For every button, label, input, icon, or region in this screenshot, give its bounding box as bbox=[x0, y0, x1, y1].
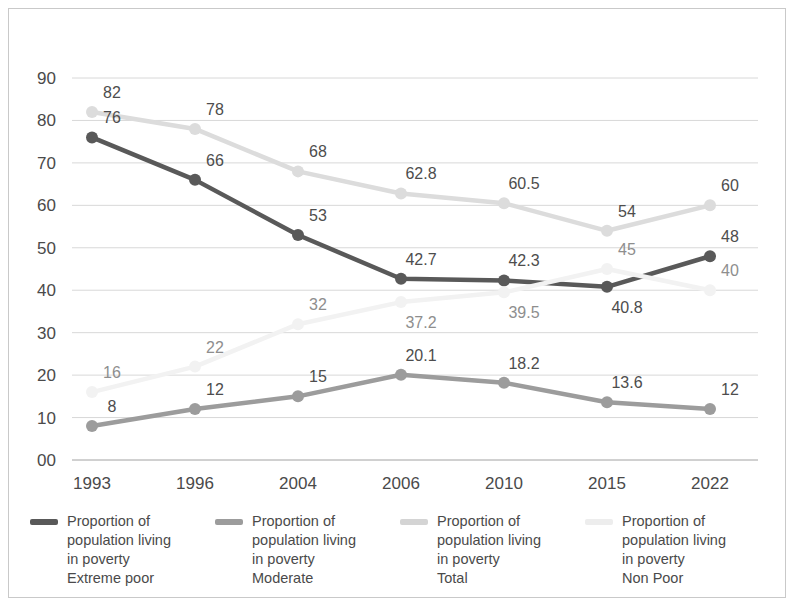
y-axis-tick-label: 90 bbox=[37, 69, 56, 88]
data-point bbox=[601, 396, 613, 408]
y-axis-tick-label: 20 bbox=[37, 366, 56, 385]
data-label: 60.5 bbox=[508, 175, 539, 192]
data-label: 22 bbox=[206, 339, 224, 356]
y-axis-tick-label: 00 bbox=[37, 451, 56, 470]
x-axis-tick-label: 2010 bbox=[485, 474, 523, 493]
data-point bbox=[498, 274, 510, 286]
legend-item-label: Proportion of population living in pover… bbox=[622, 512, 726, 588]
x-axis-tick-label: 2004 bbox=[279, 474, 317, 493]
legend-swatch-icon bbox=[585, 519, 613, 525]
legend-swatch-icon bbox=[400, 519, 428, 525]
data-label: 32 bbox=[309, 296, 327, 313]
data-label: 13.6 bbox=[611, 374, 642, 391]
legend-swatch-icon bbox=[215, 519, 243, 525]
data-point bbox=[395, 187, 407, 199]
data-point bbox=[86, 386, 98, 398]
x-axis-tick-label: 1996 bbox=[176, 474, 214, 493]
legend-item-label: Proportion of population living in pover… bbox=[67, 512, 171, 588]
data-label: 42.3 bbox=[508, 252, 539, 269]
data-point bbox=[189, 361, 201, 373]
data-point bbox=[86, 106, 98, 118]
data-point bbox=[498, 197, 510, 209]
data-point bbox=[189, 174, 201, 186]
data-label: 76 bbox=[103, 109, 121, 126]
data-label: 62.8 bbox=[405, 165, 436, 182]
x-axis-tick-labels: 1993199620042006201020152022 bbox=[73, 474, 729, 493]
data-point bbox=[292, 318, 304, 330]
gridlines bbox=[72, 78, 758, 460]
y-axis-tick-label: 60 bbox=[37, 196, 56, 215]
data-point bbox=[292, 165, 304, 177]
data-point bbox=[498, 286, 510, 298]
legend-item[interactable]: Proportion of population living in pover… bbox=[585, 512, 770, 588]
data-label: 18.2 bbox=[508, 355, 539, 372]
x-axis-tick-label: 2006 bbox=[382, 474, 420, 493]
data-label: 54 bbox=[618, 203, 636, 220]
data-label: 12 bbox=[721, 381, 739, 398]
data-label: 20.1 bbox=[405, 347, 436, 364]
y-axis-tick-label: 40 bbox=[37, 281, 56, 300]
data-label: 68 bbox=[309, 143, 327, 160]
data-point bbox=[704, 250, 716, 262]
data-point bbox=[189, 123, 201, 135]
data-point bbox=[601, 225, 613, 237]
data-point bbox=[704, 403, 716, 415]
data-point bbox=[86, 420, 98, 432]
data-label: 16 bbox=[103, 364, 121, 381]
data-label: 39.5 bbox=[508, 304, 539, 321]
data-point bbox=[704, 284, 716, 296]
x-axis-tick-label: 2015 bbox=[588, 474, 626, 493]
data-label: 12 bbox=[206, 381, 224, 398]
legend-item-label: Proportion of population living in pover… bbox=[437, 512, 541, 588]
y-axis-tick-label: 10 bbox=[37, 409, 56, 428]
data-label: 8 bbox=[108, 398, 117, 415]
y-axis-tick-label: 80 bbox=[37, 111, 56, 130]
data-label: 82 bbox=[103, 84, 121, 101]
x-axis-tick-label: 1993 bbox=[73, 474, 111, 493]
data-label: 37.2 bbox=[405, 314, 436, 331]
data-point bbox=[601, 281, 613, 293]
x-axis-tick-label: 2022 bbox=[691, 474, 729, 493]
data-label: 40 bbox=[721, 262, 739, 279]
legend-item[interactable]: Proportion of population living in pover… bbox=[30, 512, 215, 588]
y-axis-tick-labels: 00102030405060708090 bbox=[37, 69, 56, 470]
data-label: 48 bbox=[721, 228, 739, 245]
data-label: 60 bbox=[721, 177, 739, 194]
data-point bbox=[395, 273, 407, 285]
data-label: 40.8 bbox=[611, 299, 642, 316]
data-point bbox=[292, 390, 304, 402]
data-point bbox=[395, 369, 407, 381]
data-point bbox=[498, 377, 510, 389]
data-label: 15 bbox=[309, 368, 327, 385]
data-label: 53 bbox=[309, 207, 327, 224]
data-label: 45 bbox=[618, 241, 636, 258]
y-axis-tick-label: 30 bbox=[37, 324, 56, 343]
legend-item-label: Proportion of population living in pover… bbox=[252, 512, 356, 588]
data-point bbox=[395, 296, 407, 308]
data-point bbox=[86, 131, 98, 143]
data-label: 78 bbox=[206, 101, 224, 118]
legend-swatch-icon bbox=[30, 519, 58, 525]
data-point bbox=[704, 199, 716, 211]
data-point bbox=[601, 263, 613, 275]
chart-legend: Proportion of population living in pover… bbox=[30, 512, 770, 588]
data-label: 42.7 bbox=[405, 251, 436, 268]
legend-item[interactable]: Proportion of population living in pover… bbox=[215, 512, 400, 588]
data-label: 66 bbox=[206, 152, 224, 169]
y-axis-tick-label: 70 bbox=[37, 154, 56, 173]
y-axis-tick-label: 50 bbox=[37, 239, 56, 258]
legend-item[interactable]: Proportion of population living in pover… bbox=[400, 512, 585, 588]
data-point bbox=[292, 229, 304, 241]
data-point bbox=[189, 403, 201, 415]
